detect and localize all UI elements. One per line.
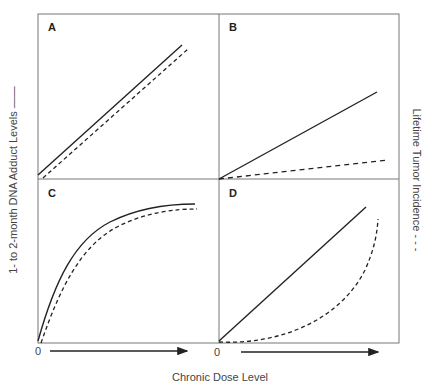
x-origin-left: 0 (35, 345, 41, 357)
panel-b-curves (219, 92, 388, 179)
panel-label-d: D (229, 187, 237, 199)
panel-b-solid-line (219, 92, 377, 179)
panel-label-a: A (48, 21, 56, 33)
panel-b-dashed-line (219, 160, 388, 179)
y-axis-left-label: 1- to 2-month DNA Adduct Levels —— (7, 86, 19, 274)
panel-c-dashed-curve (41, 209, 197, 343)
figure-canvas (0, 0, 433, 392)
x-origin-right: 0 (214, 346, 220, 358)
panel-label-b: B (229, 21, 237, 33)
panel-c-curves (38, 204, 197, 343)
panel-c-solid-curve (38, 204, 195, 341)
panel-d-solid-line (219, 207, 366, 341)
panel-d-dashed-curve (219, 219, 378, 342)
panel-a-solid-line (38, 45, 182, 175)
panel-d-curves (219, 207, 378, 342)
x-axis-label: Chronic Dose Level (172, 371, 268, 383)
panel-label-c: C (48, 187, 56, 199)
y-axis-right-label: Lifetime Tumor Incidence - - - (411, 108, 423, 251)
panel-a-dashed-line (43, 49, 188, 178)
panel-a-curves (38, 45, 188, 178)
